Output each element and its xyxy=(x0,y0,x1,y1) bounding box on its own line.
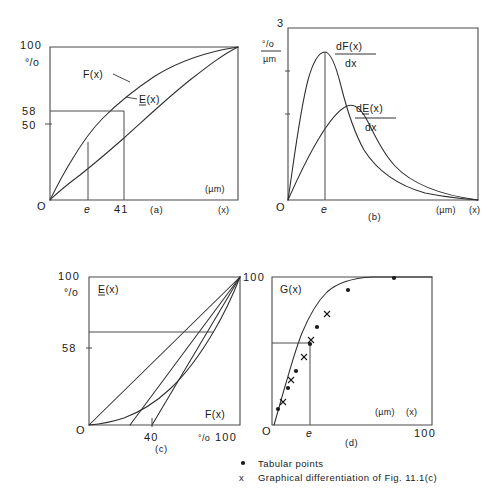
panel-d-graphical-point xyxy=(324,311,330,317)
panel-c-origin-label: O xyxy=(76,424,86,436)
panel-d-ylabel-100: 100 xyxy=(243,271,265,283)
panel-d-xmax-label: 100 xyxy=(414,427,436,439)
cross-marker-icon: x xyxy=(239,472,244,483)
figure-root: 100 °/o 58 50 O e 41 (a) (µm) (x) F(x) E… xyxy=(0,0,499,491)
panel-c-tangent-2 xyxy=(130,277,240,425)
panel-a: 100 °/o 58 50 O e 41 (a) (µm) (x) F(x) E… xyxy=(20,39,238,215)
panel-c-ylabel-percent: °/o xyxy=(64,286,78,298)
panel-d-tabular-point xyxy=(315,325,319,329)
panel-c-ylabel-100: 100 xyxy=(58,270,80,282)
panel-b-curve-label-dfdx-den: dx xyxy=(345,57,357,69)
panel-d-xunit-label: (µm) xyxy=(375,407,395,417)
panel-c-curve-label-ex: E(x) xyxy=(98,283,119,295)
panel-c: 100 °/o 58 E(x) O 40 (c) F(x) °/o 100 xyxy=(58,270,240,454)
panel-d-tabular-point xyxy=(392,276,396,280)
panel-d-xtick-e: e xyxy=(306,427,312,439)
dot-marker-icon xyxy=(241,461,245,465)
panel-a-leader-fx xyxy=(113,74,130,82)
panel-d-graphical-point xyxy=(301,354,307,360)
panel-a-ytick-58: 58 xyxy=(22,105,37,117)
panel-b-curve-label-dedx-num: dE(x) xyxy=(356,102,383,114)
panel-d-tabular-point xyxy=(346,288,350,292)
panel-c-xtick-40: 40 xyxy=(144,431,159,443)
panel-d-panel-label: (d) xyxy=(345,437,358,448)
panel-a-curve-ex xyxy=(50,47,238,200)
panel-a-ylabel-100: 100 xyxy=(20,39,42,51)
panel-a-xvar-label: (x) xyxy=(218,205,229,215)
panel-b-curve-label-dedx-den: dx xyxy=(365,121,377,133)
panel-d-xvar-label: (x) xyxy=(406,407,417,417)
panel-a-curve-label-ex: E(x) xyxy=(139,93,160,105)
panel-b-curve-label-dfdx-num: dF(x) xyxy=(336,40,363,52)
panel-a-panel-label: (a) xyxy=(150,204,163,215)
panel-d-curve-gx xyxy=(274,277,432,425)
panel-b-xunit-label: (µm) xyxy=(436,205,456,215)
legend-label-tabular-points: Tabular points xyxy=(258,458,323,469)
panel-c-xunit-label: °/o xyxy=(198,433,210,443)
panel-d-tabular-point xyxy=(276,407,280,411)
panel-b-ylabel-3: 3 xyxy=(277,17,284,29)
panel-d-tabular-point xyxy=(294,369,298,373)
legend: Tabular points x Graphical differentiati… xyxy=(239,458,437,483)
panel-a-xunit-label: (µm) xyxy=(205,184,225,194)
panel-a-origin-label: O xyxy=(37,200,47,212)
panel-b: 3 °/o µm O e (b) (µm) (x) dF(x) dx dE(x)… xyxy=(261,17,480,222)
panel-a-frame xyxy=(50,47,238,200)
panel-a-ylabel-percent: °/o xyxy=(25,56,39,68)
panel-d-graphical-point xyxy=(288,377,294,383)
panel-c-panel-label: (c) xyxy=(155,443,168,454)
panel-d-tabular-point xyxy=(286,386,290,390)
panel-b-frame xyxy=(288,28,478,200)
panel-c-xmax-label: 100 xyxy=(215,431,237,443)
panel-a-leader-ex xyxy=(126,97,137,99)
panel-b-xvar-label: (x) xyxy=(469,205,480,215)
panel-c-ytick-58: 58 xyxy=(62,342,77,354)
panel-b-xtick-e: e xyxy=(321,203,327,215)
legend-label-graphical-differentiation: Graphical differentiation of Fig. 11.1(c… xyxy=(258,472,437,483)
panel-b-yunit-numerator: °/o xyxy=(262,39,274,49)
panel-d-curve-label-gx: G(x) xyxy=(280,283,302,295)
panel-b-yunit-denominator: µm xyxy=(263,54,276,64)
panel-a-curve-fx xyxy=(50,47,238,200)
figure-svg: 100 °/o 58 50 O e 41 (a) (µm) (x) F(x) E… xyxy=(0,0,499,491)
panel-a-ytick-50: 50 xyxy=(22,119,37,131)
panel-a-xtick-41: 41 xyxy=(114,203,129,215)
panel-b-panel-label: (b) xyxy=(368,211,381,222)
panel-a-xtick-e: e xyxy=(84,203,90,215)
panel-d-graphical-point xyxy=(308,337,314,343)
panel-d-origin-label: O xyxy=(262,425,272,437)
panel-c-xvar-label: F(x) xyxy=(205,408,225,420)
panel-d: 100 G(x) O e (d) (µm) (x) 100 xyxy=(243,271,436,448)
panel-a-curve-label-fx: F(x) xyxy=(83,68,103,80)
panel-c-chord-1 xyxy=(89,277,240,425)
panel-b-curve-dfdx xyxy=(288,52,478,200)
panel-b-curve-dedx xyxy=(288,105,478,200)
panel-b-origin-label: O xyxy=(276,201,286,213)
